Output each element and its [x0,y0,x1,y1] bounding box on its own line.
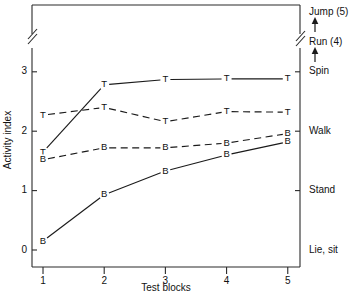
data-point-marker: B [162,141,168,152]
series-segment [170,143,221,147]
data-point-marker: T [224,72,230,83]
right-axis-label: Jump (5) [309,6,348,17]
data-point-marker: T [40,109,46,120]
y-tick-label: 3 [21,65,27,76]
data-point-marker: B [223,148,229,159]
series-segment [109,109,160,121]
x-tick-label: 4 [224,275,230,286]
series-segment [47,198,100,238]
right-axis-label: Stand [309,184,335,195]
activity-index-chart: 0123 12345 Jump (5)Run (4)SpinWalkStandL… [0,0,351,301]
chart-canvas: 0123 12345 Jump (5)Run (4)SpinWalkStandL… [0,0,351,301]
data-point-marker: B [223,137,229,148]
x-axis-title: Test blocks [141,282,190,293]
series-segment [109,80,160,84]
y-tick-label: 1 [21,184,27,195]
data-point-marker: T [162,115,168,126]
data-point-marker: B [101,141,107,152]
y-axis-title: Activity index [2,111,13,169]
right-axis-label: Run (4) [309,36,342,47]
series-segment [232,134,283,142]
data-point-marker: B [285,135,291,146]
series-segment [109,173,161,193]
data-point-marker: T [101,101,107,112]
data-point-marker: B [40,153,46,164]
data-markers: TTTTTTTTTTTTTTTTTTTTBBBBBBBBBBBBBBBBBBBB [40,72,291,245]
series-segment [170,156,222,170]
data-point-marker: T [285,72,291,83]
series-segment [170,112,221,120]
x-tick-label: 2 [101,275,107,286]
arrow-run-spin-icon [312,47,319,62]
arrow-jump-run-icon [312,17,319,32]
x-tick-label: 5 [285,275,291,286]
series-segment [48,149,99,159]
right-axis-label: Spin [309,65,329,76]
series-segment [48,108,99,114]
data-point-marker: B [162,165,168,176]
y-axis-ticks: 0123 [21,65,37,254]
series-segment [46,89,100,149]
right-axis-label: Lie, sit [309,244,338,255]
series-segment [231,143,282,154]
y-tick-label: 0 [21,244,27,255]
data-series [46,79,282,238]
y-tick-label: 2 [21,125,27,136]
data-point-marker: T [162,73,168,84]
right-axis-labels: Jump (5)Run (4)SpinWalkStandLie, sit [295,6,348,255]
data-point-marker: T [224,105,230,116]
data-point-marker: T [285,106,291,117]
data-point-marker: B [101,188,107,199]
right-axis-label: Walk [309,125,332,136]
data-point-marker: T [101,78,107,89]
x-tick-label: 1 [40,275,46,286]
plot-frame [32,5,300,267]
data-point-marker: B [40,235,46,246]
